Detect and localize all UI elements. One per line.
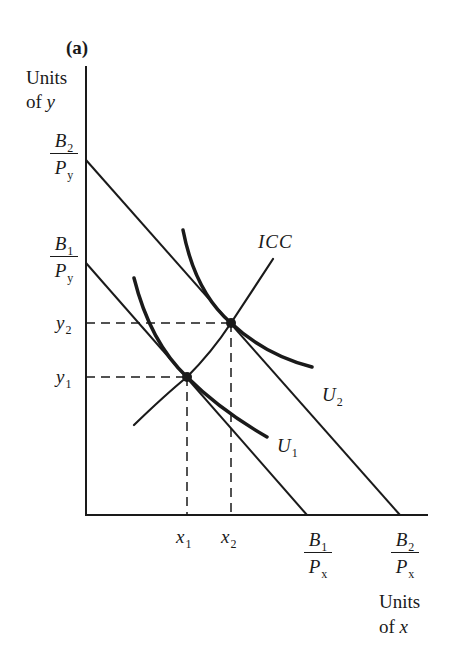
u1-label: U1	[277, 436, 298, 455]
b2-px-den-sub: x	[408, 567, 414, 581]
b1-px-den-sub: x	[321, 567, 327, 581]
x1-var: x	[176, 526, 184, 547]
tick-b1-px: B1 Px	[304, 530, 332, 576]
tick-y2: y2	[56, 313, 71, 332]
tick-b2-px: B2 Px	[391, 530, 419, 576]
x-axis-label-var: x	[400, 616, 408, 637]
b1-px-den: P	[309, 556, 321, 577]
tick-x1: x1	[176, 527, 191, 546]
b2-py-num: B	[55, 130, 67, 151]
b2-px-num-sub: 2	[408, 540, 414, 554]
b1-px-num-sub: 1	[321, 540, 327, 554]
u2-sub: 2	[337, 395, 343, 409]
u1-sub: 1	[292, 446, 298, 460]
b2-px-num: B	[396, 529, 408, 550]
x-axis-label-line2: of x	[379, 617, 408, 636]
y-axis-label-var: y	[47, 91, 55, 112]
b2-py-den: P	[55, 157, 67, 178]
tick-b1-py: B1 Py	[50, 234, 78, 280]
fraction-bar	[50, 153, 78, 154]
y1-var: y	[56, 366, 64, 387]
u2-label: U2	[322, 385, 343, 404]
y-axis-label-line1: Units	[26, 68, 67, 87]
b2-px-den: P	[396, 556, 408, 577]
y2-sub: 2	[65, 323, 71, 337]
equilibrium-point-1	[182, 372, 192, 382]
x1-sub: 1	[185, 537, 191, 551]
budget-line-2	[86, 160, 400, 515]
fraction-bar	[304, 552, 332, 553]
x2-sub: 2	[230, 537, 236, 551]
indifference-curve-u1	[134, 278, 267, 437]
tick-x2: x2	[221, 527, 236, 546]
y-axis-label-line2: of y	[26, 92, 55, 111]
panel-label: (a)	[66, 38, 88, 57]
y2-var: y	[56, 312, 64, 333]
b1-py-num-sub: 1	[67, 244, 73, 258]
b1-py-den: P	[55, 260, 67, 281]
fraction-bar	[391, 552, 419, 553]
tick-b2-py: B2 Py	[50, 131, 78, 177]
y1-sub: 1	[65, 377, 71, 391]
x-axis-label-prefix: of	[379, 616, 400, 637]
u1-var: U	[277, 435, 291, 456]
b1-py-num: B	[55, 233, 67, 254]
x2-var: x	[221, 526, 229, 547]
equilibrium-point-2	[226, 318, 236, 328]
b2-py-num-sub: 2	[67, 141, 73, 155]
y-axis-label-prefix: of	[26, 91, 47, 112]
tick-y1: y1	[56, 367, 71, 386]
fraction-bar	[50, 256, 78, 257]
b1-px-num: B	[309, 529, 321, 550]
b1-py-den-sub: y	[67, 271, 73, 285]
b2-py-den-sub: y	[67, 168, 73, 182]
budget-line-1	[86, 263, 307, 515]
icc-label: ICC	[258, 232, 293, 251]
u2-var: U	[322, 384, 336, 405]
x-axis-label-line1: Units	[379, 592, 420, 611]
